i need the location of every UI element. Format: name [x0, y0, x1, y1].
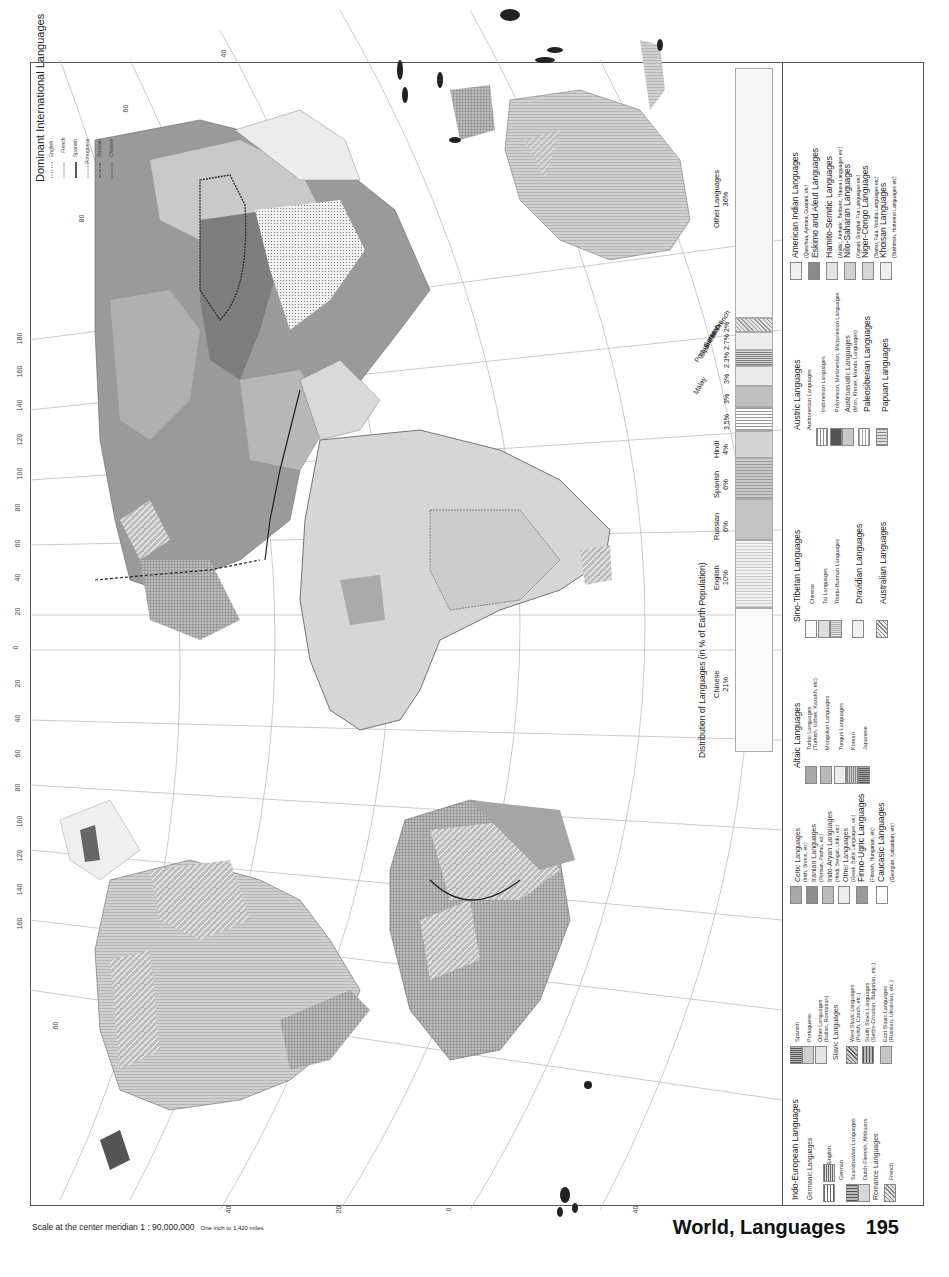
swatch-austroasiatic: [842, 428, 854, 446]
lat-label: 40: [220, 50, 227, 58]
pct-arabic: 2.7%: [723, 334, 730, 350]
swatch-celtic: [790, 886, 802, 904]
swatch-hamito-semitic: [826, 262, 838, 280]
swatch-korean: [846, 766, 858, 784]
tick-label: 20: [14, 680, 21, 688]
page-heading: World, Languages195: [673, 1216, 899, 1239]
legend-item: Caucasic Languages(Georgian, Kabardian, …: [876, 803, 896, 882]
bar-segment-japanese: [735, 366, 773, 386]
legend-item: East Slavic Languages(Russian, Ukrainian…: [882, 980, 894, 1042]
legend-item: Nilo-Saharan Languages(Kanuri, Songhai, …: [842, 164, 862, 258]
chart-title: Distribution of Languages (in % of Earth…: [697, 562, 707, 758]
swatch-portuguese: [802, 1046, 814, 1064]
bottom-tick: 20: [335, 1206, 342, 1214]
swatch-eskimo: [808, 262, 820, 280]
legend-subgroup-title: Romance Languages: [872, 1133, 879, 1200]
tick-label: 160: [16, 366, 23, 378]
legend-item: English: [826, 1146, 832, 1164]
legend-item: Australian Languages: [878, 522, 888, 604]
legend-item: Turkic Languages(Turkish, Uzbek, Kazakh,…: [806, 678, 818, 750]
tick-label: 120: [16, 850, 23, 862]
swatch-scandinavian: [846, 1184, 858, 1202]
legend-line-chinese: Chinese: [108, 139, 114, 157]
tick-label: 60: [14, 750, 21, 758]
scale-text: Scale at the center meridian 1 : 90,000,…: [32, 1222, 195, 1232]
legend-item: Other Languages(Italian, Romanian): [817, 996, 829, 1042]
legend-group-title: Austric Languages: [792, 360, 802, 430]
legend-item: German: [838, 1160, 844, 1180]
legend-subgroup-title: Germanic Languages: [806, 1138, 813, 1200]
swatch-chinese: [805, 620, 817, 638]
tick-label: 40: [14, 574, 21, 582]
swatch-french: [884, 1184, 896, 1202]
legend-item: West Slavic Languages(Polish, Czech, etc…: [849, 985, 861, 1042]
bar-segment-russian: [735, 499, 773, 540]
swatch-english: [823, 1184, 835, 1202]
swatch-west-slavic: [846, 1046, 858, 1064]
legend-item: Scandinavian Languages: [850, 1118, 856, 1180]
bar-segment-hindi: [735, 431, 773, 458]
swatch-caucasic: [876, 886, 888, 904]
swatch-tai: [818, 620, 830, 638]
legend-item: Tibeto-Burman Languages: [834, 539, 840, 604]
legend-item: Austronesian Languages: [806, 369, 812, 430]
legend-line-portuguese: Portuguese: [84, 138, 90, 164]
south-america-landmass: [390, 800, 575, 1060]
legend-line-russian: Russian: [96, 139, 102, 157]
legend-item: Mongolian Languages: [824, 696, 830, 750]
scale-note: Scale at the center meridian 1 : 90,000,…: [32, 1222, 264, 1232]
bar-segment-german: [735, 350, 773, 366]
swatch-mongolian: [820, 766, 832, 784]
dominant-legend-title: Dominant International Languages: [34, 14, 46, 182]
legend-item: Paleosiberian Languages: [862, 316, 872, 412]
swatch-other-romance: [815, 1046, 827, 1064]
tick-label: 180: [16, 333, 23, 345]
pct-portuguese: 3%: [723, 394, 730, 404]
legend-item: Tungus Languages: [838, 703, 844, 750]
legend-subgroup-title: Slavic Languages: [832, 1005, 839, 1060]
legend-item: Dravidian Languages: [854, 524, 864, 604]
swatch-nilo-saharan: [844, 262, 856, 280]
swatch-polynesian: [830, 428, 842, 446]
bar-segment-spanish: [735, 458, 773, 499]
tick-label: 80: [14, 504, 21, 512]
tick-label: 120: [16, 434, 23, 446]
swatch-indonesian: [816, 428, 828, 446]
north-america-landmass: [60, 800, 370, 1170]
legend-group-title: Sino-Tibetan Languages: [792, 530, 802, 622]
swatch-dutch: [858, 1184, 870, 1202]
swatch-spanish: [790, 1046, 802, 1064]
swatch-indo-aryan: [822, 886, 834, 904]
legend-item: Indonesian Languages: [820, 356, 826, 412]
small-islands: [557, 1081, 592, 1217]
page-title: World, Languages: [673, 1216, 846, 1238]
tick-label: 140: [16, 884, 23, 896]
swatch-other-ie: [838, 886, 850, 904]
legend-item: Khoisan Languages(Bushmen, Hottentot Lan…: [878, 176, 898, 258]
lat-label: 60: [52, 1022, 59, 1030]
label-other: Other Languages36%: [712, 170, 730, 228]
label-hindi: Hindi4%: [712, 441, 730, 458]
bar-segment-english: [735, 540, 773, 608]
legend-item: Finno-Ugric Languages(Finnish, Hungarian…: [856, 794, 876, 882]
swatch-finno-ugric: [856, 886, 868, 904]
swatch-australian: [876, 620, 888, 638]
swatch-niger-congo: [862, 262, 874, 280]
legend-item: Spanish: [794, 1022, 800, 1042]
tick-label: 100: [16, 816, 23, 828]
legend-item: Indo-Aryan Languages(Hindi, Bengali, Urd…: [826, 811, 840, 882]
swatch-american-indian: [790, 262, 802, 280]
legend-item: Japanese: [862, 726, 868, 750]
legend-group-title: Altaic Languages: [792, 703, 802, 768]
label-spanish: Spanish6%: [712, 471, 730, 498]
tick-label: 40: [14, 715, 21, 723]
bar-segment-chinese: [735, 608, 773, 752]
bar-segment-french: [735, 318, 773, 332]
pct-malay: 3.5%: [723, 414, 730, 430]
legend-item: Dutch-Flemish, Afrikaans: [862, 1119, 868, 1180]
scale-inch: One inch to 1,420 miles: [201, 1225, 264, 1231]
legend-item: Other Languages(Greek, Baltic Languages,…: [842, 814, 856, 882]
swatch-tibeto-burman: [830, 620, 842, 638]
tick-label: 160: [16, 918, 23, 930]
label-english: English10%: [712, 565, 730, 590]
